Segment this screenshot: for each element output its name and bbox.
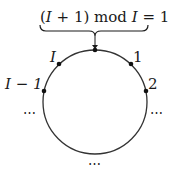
formula: (I + 1) mod I = 1 [40, 8, 169, 26]
ellipsis-right: ⋯ [150, 105, 163, 120]
label-2: 2 [148, 75, 158, 93]
label-I: I [49, 48, 57, 66]
ellipsis-bottom: ⋯ [88, 156, 101, 171]
ellipsis-left: ⋯ [23, 105, 36, 120]
point-I [57, 62, 62, 67]
underbrace [40, 25, 148, 36]
label-I-minus-1: I − 1 [4, 75, 43, 93]
ring-diagram: (I + 1) mod I = 1 I 1 I − 1 2 ⋯ ⋯ ⋯ [0, 0, 170, 174]
label-1: 1 [133, 48, 143, 66]
point-top [93, 48, 98, 53]
